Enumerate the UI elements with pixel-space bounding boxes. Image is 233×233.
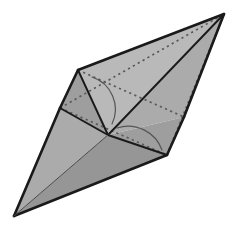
- polyhedron-diagram: [0, 0, 233, 233]
- figure-root: Elongated bipyramid wireframe solid Grey…: [0, 0, 233, 233]
